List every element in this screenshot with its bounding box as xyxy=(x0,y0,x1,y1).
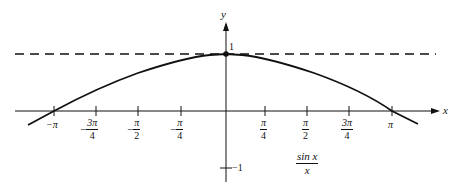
x-axis-arrow-icon xyxy=(431,108,440,114)
numerator: π xyxy=(133,118,140,130)
point-0-1 xyxy=(223,51,229,57)
x-tick-label-pi: π xyxy=(388,120,393,130)
x-axis-label: x xyxy=(443,105,448,116)
denominator: 4 xyxy=(177,130,182,141)
y-tick-label-neg-one: −1 xyxy=(232,163,243,173)
numerator: π xyxy=(176,118,183,130)
sinc-curve xyxy=(28,54,418,125)
denominator: 4 xyxy=(261,130,266,141)
caption-denominator: x xyxy=(305,164,310,176)
numerator: 3π xyxy=(86,118,98,130)
curve-caption: sin x x xyxy=(296,151,318,176)
x-tick-label-neg-3pi-4: − 3π4 xyxy=(80,118,98,141)
numerator: π xyxy=(260,118,267,130)
denominator: 4 xyxy=(345,130,350,141)
denominator: 2 xyxy=(134,130,139,141)
x-tick-label-neg-pi-4: − π4 xyxy=(170,118,183,141)
x-tick-label-neg-pi-2: − π2 xyxy=(127,118,140,141)
x-tick-label-neg-pi: −π xyxy=(46,120,58,130)
numerator: 3π xyxy=(341,118,353,130)
x-tick-label-3pi-4: 3π4 xyxy=(341,118,353,141)
x-tick-label-pi-4: π4 xyxy=(260,118,267,141)
plot-canvas xyxy=(0,0,459,192)
y-tick-label-one: 1 xyxy=(229,42,234,52)
caption-numerator: sin x xyxy=(296,151,318,164)
denominator: 2 xyxy=(303,130,308,141)
x-tick-label-pi-2: π2 xyxy=(302,118,309,141)
numerator: π xyxy=(302,118,309,130)
y-axis-arrow-icon xyxy=(223,22,229,31)
y-axis-label: y xyxy=(221,9,226,20)
denominator: 4 xyxy=(90,130,95,141)
